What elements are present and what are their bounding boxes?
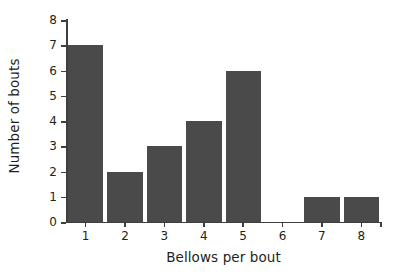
bar — [226, 71, 261, 223]
x-axis-tick-label: 3 — [149, 229, 179, 244]
y-axis-tick-label: 5 — [49, 88, 57, 104]
x-axis-tick-label: 7 — [307, 229, 337, 244]
chart-figure: Number of bouts 01234567812345678 Bellow… — [0, 0, 396, 276]
x-axis-tick-mark — [124, 222, 126, 227]
x-axis-tick-mark — [242, 222, 244, 227]
y-axis-tick-mark — [61, 121, 66, 123]
x-axis-tick-mark — [203, 222, 205, 227]
x-axis-tick-mark — [282, 222, 284, 227]
y-axis-tick-label: 4 — [49, 113, 57, 129]
x-axis-tick-label: 8 — [346, 229, 376, 244]
y-axis-tick-mark — [61, 71, 66, 73]
y-axis-title: Number of bouts — [0, 0, 28, 232]
y-axis-tick-mark — [61, 45, 66, 47]
y-axis-tick-mark — [61, 20, 66, 22]
y-axis-tick-label: 3 — [49, 138, 57, 154]
x-axis-title: Bellows per bout — [66, 249, 381, 265]
x-axis-tick-label: 1 — [71, 229, 101, 244]
y-axis-tick-mark — [61, 172, 66, 174]
y-axis-tick-mark — [61, 197, 66, 199]
y-axis-title-text: Number of bouts — [6, 58, 22, 173]
x-axis-end-tick-mark — [380, 222, 382, 227]
x-axis-tick-label: 2 — [110, 229, 140, 244]
x-axis-tick-mark — [361, 222, 363, 227]
bar — [107, 172, 142, 223]
x-axis-tick-mark — [85, 222, 87, 227]
bar — [147, 146, 182, 222]
y-axis-tick-label: 7 — [49, 37, 57, 53]
y-axis-tick-label: 2 — [49, 164, 57, 180]
y-axis-tick-mark — [61, 146, 66, 148]
y-axis-tick-label: 6 — [49, 63, 57, 79]
bar — [186, 121, 221, 222]
plot-area: 01234567812345678 — [66, 20, 381, 222]
bar — [68, 45, 103, 222]
y-axis-tick-mark — [61, 96, 66, 98]
x-axis-tick-label: 5 — [228, 229, 258, 244]
x-axis-tick-label: 6 — [268, 229, 298, 244]
y-axis-tick-label: 1 — [49, 189, 57, 205]
y-axis-tick-label: 8 — [49, 12, 57, 28]
x-axis-tick-label: 4 — [189, 229, 219, 244]
x-axis-tick-mark — [321, 222, 323, 227]
y-axis-tick-label: 0 — [49, 214, 57, 230]
x-axis-tick-mark — [164, 222, 166, 227]
bar — [344, 197, 379, 222]
bar — [304, 197, 339, 222]
y-axis-tick-mark — [61, 222, 66, 224]
